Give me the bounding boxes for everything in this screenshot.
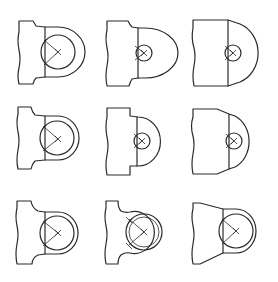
shape-3-lug-tapered-head-small-bore — [192, 20, 258, 86]
shape-7-lug-curved-neck-large-bore — [16, 201, 78, 264]
figure-svg — [0, 0, 278, 282]
lug-drawings-figure: 3x3 grid of technical drawing variants o… — [0, 0, 278, 282]
shape-5-lug-stepped-neck-small-bore-short-head — [106, 108, 160, 175]
shape-1-lug-stepped-neck-large-bore — [18, 21, 85, 84]
shape-6-lug-tapered-neck-small-bore — [192, 109, 250, 174]
shape-8-lug-curved-neck-ring-with-bushing — [105, 201, 162, 264]
shape-2-lug-stepped-neck-small-bore — [106, 21, 178, 86]
shape-4-lug-stepped-neck-large-bore-thin-wall — [17, 107, 79, 169]
shape-9-lug-tapered-body-large-bore — [192, 203, 256, 264]
